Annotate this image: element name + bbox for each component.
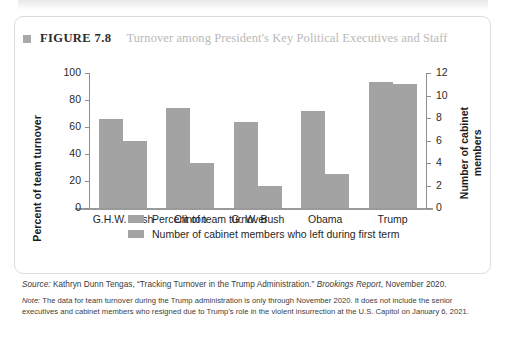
bar-percent-turnover	[234, 122, 258, 208]
note-prefix: Note:	[22, 296, 40, 305]
legend-label: Percent of team turnover	[152, 213, 268, 225]
source-text-a: Kathryn Dunn Tengas, “Tracking Turnover …	[51, 280, 317, 289]
y-axis-left-title: Percent of team turnover	[31, 115, 43, 242]
bar-percent-turnover	[166, 108, 190, 208]
y-tick-right	[427, 118, 431, 119]
y-tick-label-right: 6	[436, 134, 462, 146]
source-prefix: Source:	[22, 280, 51, 289]
source-text-b: , November 2020.	[381, 280, 447, 289]
y-tick-label-left: 40	[55, 147, 81, 159]
bar-group	[99, 73, 147, 208]
figure-number: FIGURE 7.8	[40, 31, 111, 46]
page-top-bleed	[18, 0, 488, 10]
y-tick-right	[427, 163, 431, 164]
y-tick-right	[427, 96, 431, 97]
y-tick-label-right: 8	[436, 111, 462, 123]
x-axis-line	[75, 208, 433, 210]
figure-header: FIGURE 7.8 Turnover among President's Ke…	[23, 31, 448, 46]
bar-percent-turnover	[301, 111, 325, 208]
legend-label: Number of cabinet members who left durin…	[152, 228, 399, 240]
bar-group	[234, 73, 282, 208]
y-tick-label-right: 0	[436, 201, 462, 213]
y-tick-left	[85, 208, 89, 209]
bar-group	[166, 73, 214, 208]
bar-series-container	[89, 73, 426, 208]
figure-note: Note: The data for team turnover during …	[22, 296, 490, 317]
y-axis-right-title: Number of cabinet members	[458, 107, 488, 199]
bar-percent-turnover	[99, 119, 123, 208]
bar-cabinet-members	[123, 141, 147, 209]
legend-swatch	[128, 230, 144, 238]
y-tick-right	[427, 186, 431, 187]
note-text: The data for team turnover during the Tr…	[22, 296, 469, 316]
y-tick-label-right: 4	[436, 156, 462, 168]
y-tick-label-left: 0	[55, 201, 81, 213]
y-axis-right-title-line2: members	[471, 130, 483, 177]
bar-cabinet-members	[258, 186, 282, 209]
bar-percent-turnover	[369, 82, 393, 208]
y-tick-right	[427, 208, 431, 209]
y-tick-right	[427, 73, 431, 74]
y-tick-label-left: 80	[55, 93, 81, 105]
y-tick-right	[427, 141, 431, 142]
source-publication: Brookings Report	[317, 280, 381, 289]
figure-card: FIGURE 7.8 Turnover among President's Ke…	[14, 16, 491, 274]
legend-item: Number of cabinet members who left durin…	[128, 228, 399, 240]
y-tick-label-left: 20	[55, 174, 81, 186]
chart-legend: Percent of team turnoverNumber of cabine…	[128, 213, 399, 243]
figure-title: Turnover among President's Key Political…	[126, 31, 447, 46]
bar-cabinet-members	[190, 163, 214, 208]
y-tick-label-right: 2	[436, 179, 462, 191]
legend-item: Percent of team turnover	[128, 213, 399, 225]
y-tick-label-right: 10	[436, 89, 462, 101]
square-bullet-icon	[23, 35, 31, 43]
y-tick-label-right: 12	[436, 66, 462, 78]
bar-group	[369, 73, 417, 208]
y-tick-label-left: 60	[55, 120, 81, 132]
bar-cabinet-members	[393, 84, 417, 208]
figure-source: Source: Kathryn Dunn Tengas, “Tracking T…	[22, 280, 488, 289]
figure-page: FIGURE 7.8 Turnover among President's Ke…	[0, 0, 505, 342]
y-tick-label-left: 100	[55, 66, 81, 78]
legend-swatch	[128, 215, 144, 223]
bar-cabinet-members	[325, 174, 349, 208]
bar-group	[301, 73, 349, 208]
